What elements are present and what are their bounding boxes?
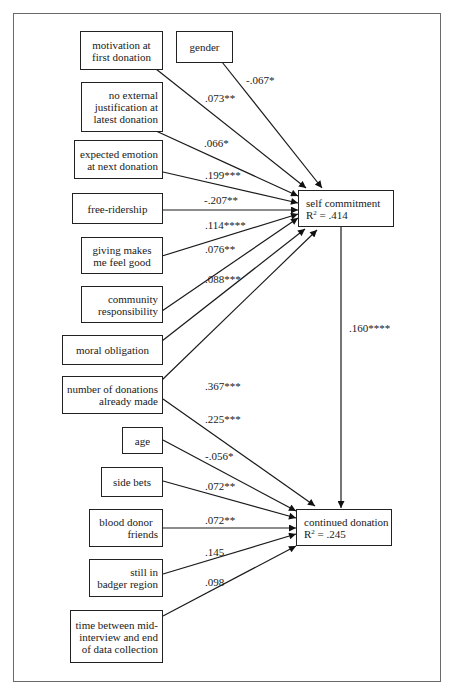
coef-motivation-sc: .073** bbox=[205, 92, 235, 104]
arrow-badger-cd bbox=[163, 534, 296, 574]
node-motivation: motivation at first donation bbox=[80, 31, 163, 70]
coef-friends-cd: .072** bbox=[205, 514, 235, 526]
node-expected-emotion: expected emotion at next donation bbox=[74, 140, 163, 179]
arrow-community-sc bbox=[162, 218, 298, 311]
coef-expected-emotion-sc: .199*** bbox=[205, 169, 241, 181]
coef-moral-sc: .088*** bbox=[205, 273, 241, 285]
r2-self-commitment: R2 = .414 bbox=[306, 209, 348, 221]
node-no-external-justification: no external justification at latest dona… bbox=[81, 82, 163, 132]
node-time-between: time between mid- interview and end of d… bbox=[70, 610, 163, 663]
coef-num-donations-cd: .225*** bbox=[205, 413, 241, 425]
node-age: age bbox=[122, 427, 163, 454]
coef-badger-cd: .145 bbox=[205, 546, 224, 558]
arrow-numdon-sc bbox=[162, 230, 317, 380]
node-still-in-badger-region: still in badger region bbox=[89, 559, 163, 597]
node-gender: gender bbox=[176, 31, 233, 63]
node-free-ridership: free-ridership bbox=[72, 193, 163, 224]
coef-gender-sc: -.067* bbox=[246, 74, 274, 86]
node-continued-donation: continued donation R2 = .245 bbox=[296, 509, 392, 546]
coef-side-bets-cd: .072** bbox=[205, 480, 235, 492]
coef-num-donations-sc: .367*** bbox=[205, 380, 241, 392]
node-blood-donor-friends: blood donor friends bbox=[89, 509, 163, 547]
node-moral-obligation: moral obligation bbox=[62, 335, 163, 365]
arrow-time-cd bbox=[163, 546, 296, 616]
node-side-bets: side bets bbox=[101, 467, 163, 497]
coef-giving-good-sc: .114**** bbox=[205, 219, 246, 231]
coef-age-cd: -.056* bbox=[205, 450, 233, 462]
coef-no-external-sc: .066* bbox=[204, 137, 229, 149]
coef-sc-cd: .160**** bbox=[349, 322, 390, 334]
coef-community-sc: .076** bbox=[205, 243, 235, 255]
node-number-of-donations: number of donations already made bbox=[62, 376, 163, 414]
coef-time-between-cd: .098 bbox=[205, 576, 224, 588]
node-self-commitment: self commitment R2 = .414 bbox=[298, 190, 394, 227]
node-community-responsibility: community responsibility bbox=[81, 286, 163, 323]
coef-free-ridership-sc: -.207** bbox=[204, 194, 238, 206]
node-giving-feel-good: giving makes me feel good bbox=[81, 237, 163, 274]
r2-continued-donation: R2 = .245 bbox=[304, 528, 346, 540]
